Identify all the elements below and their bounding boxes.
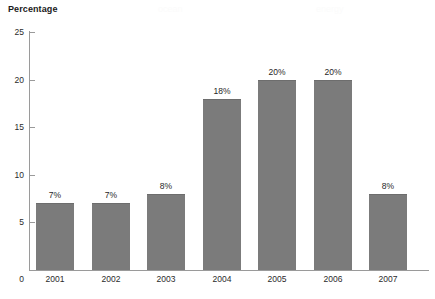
bar-value-label-2007: 8% xyxy=(368,182,408,191)
y-tick-label-5: 5 xyxy=(0,218,24,227)
watermark-artifact-right: energy xyxy=(316,4,344,14)
x-tick-label-2005: 2005 xyxy=(257,275,297,284)
bar-2003[interactable] xyxy=(147,194,185,270)
x-tick-label-2001: 2001 xyxy=(35,275,75,284)
y-tick-label-10: 10 xyxy=(0,171,24,180)
bar-2002[interactable] xyxy=(92,203,130,270)
x-tick-label-2006: 2006 xyxy=(313,275,353,284)
x-axis-line xyxy=(29,270,429,271)
bar-value-label-2002: 7% xyxy=(91,191,131,200)
bar-2007[interactable] xyxy=(369,194,407,270)
y-axis-title: Percentage xyxy=(8,4,58,14)
bar-2006[interactable] xyxy=(314,80,352,270)
bar-2001[interactable] xyxy=(36,203,74,270)
bars-layer xyxy=(30,32,429,270)
x-tick-label-2002: 2002 xyxy=(91,275,131,284)
y-tick-label-20: 20 xyxy=(0,76,24,85)
x-tick-label-2004: 2004 xyxy=(202,275,242,284)
watermark-artifact-left: ocean xyxy=(158,4,183,14)
y-tick-label-25: 25 xyxy=(0,28,24,37)
x-tick-label-2003: 2003 xyxy=(146,275,186,284)
bar-value-label-2005: 20% xyxy=(257,68,297,77)
bar-value-label-2006: 20% xyxy=(313,68,353,77)
bar-value-label-2004: 18% xyxy=(202,87,242,96)
x-tick-label-2007: 2007 xyxy=(368,275,408,284)
bar-chart: ocean energy Percentage 0510152025 20012… xyxy=(0,0,435,299)
bar-value-label-2001: 7% xyxy=(35,191,75,200)
y-tick-label-15: 15 xyxy=(0,123,24,132)
y-tick-label-0: 0 xyxy=(0,275,24,284)
bar-2005[interactable] xyxy=(258,80,296,270)
bar-value-label-2003: 8% xyxy=(146,182,186,191)
bar-2004[interactable] xyxy=(203,99,241,270)
